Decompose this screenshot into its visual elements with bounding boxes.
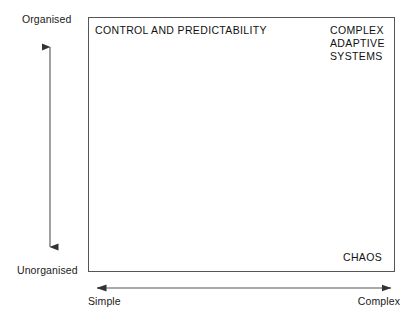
- quadrant-label-complex-adaptive-systems: COMPLEX ADAPTIVE SYSTEMS: [330, 24, 385, 63]
- quadrant-line: ADAPTIVE: [330, 37, 385, 50]
- x-axis-right-label: Complex: [358, 295, 400, 307]
- quadrant-label-chaos: CHAOS: [343, 251, 382, 264]
- quadrant-diagram: Organised Unorganised Simple Complex CON…: [0, 0, 412, 321]
- quadrant-label-control-and-predictability: CONTROL AND PREDICTABILITY: [95, 24, 267, 37]
- y-axis-top-label: Organised: [22, 13, 71, 25]
- quadrant-line: CONTROL AND PREDICTABILITY: [95, 24, 267, 37]
- quadrant-line: COMPLEX: [330, 24, 385, 37]
- x-axis-left-label: Simple: [88, 295, 121, 307]
- y-axis-bottom-label: Unorganised: [17, 264, 78, 276]
- quadrant-line: SYSTEMS: [330, 50, 385, 63]
- quadrant-line: CHAOS: [343, 251, 382, 264]
